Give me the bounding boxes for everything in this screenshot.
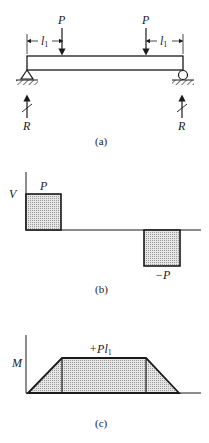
beam-diagram-canvas: P P l1 l1 R R (a) V [0, 0, 209, 443]
load-right-label: P [141, 13, 150, 27]
beam [27, 56, 183, 70]
caption-b: (b) [95, 283, 108, 296]
reaction-left-label: R [22, 119, 31, 133]
shear-negative-label: −P [155, 268, 171, 282]
dim-left-label: l1 [41, 34, 48, 49]
pin-support-icon [21, 70, 33, 79]
panel-a-beam: P P l1 l1 R R (a) [16, 13, 194, 148]
dim-right-label: l1 [160, 34, 167, 49]
moment-peak-label: +Pl1 [89, 342, 112, 357]
roller-support-icon [179, 71, 188, 80]
m-axis-label: M [11, 356, 23, 370]
shear-positive-block [26, 194, 61, 230]
panel-c-moment: M +Pl1 (c) [11, 335, 201, 430]
shear-positive-label: P [39, 179, 48, 193]
shear-negative-block [144, 230, 180, 266]
panel-b-shear: V P −P (b) [9, 172, 201, 296]
ground-hatch-right [172, 80, 194, 85]
ground-hatch-left [16, 80, 38, 85]
caption-c: (c) [95, 417, 108, 430]
caption-a: (a) [95, 135, 108, 148]
v-axis-label: V [9, 187, 18, 201]
reaction-right-label: R [177, 119, 186, 133]
load-left-label: P [57, 13, 66, 27]
moment-trapezoid [28, 358, 179, 393]
